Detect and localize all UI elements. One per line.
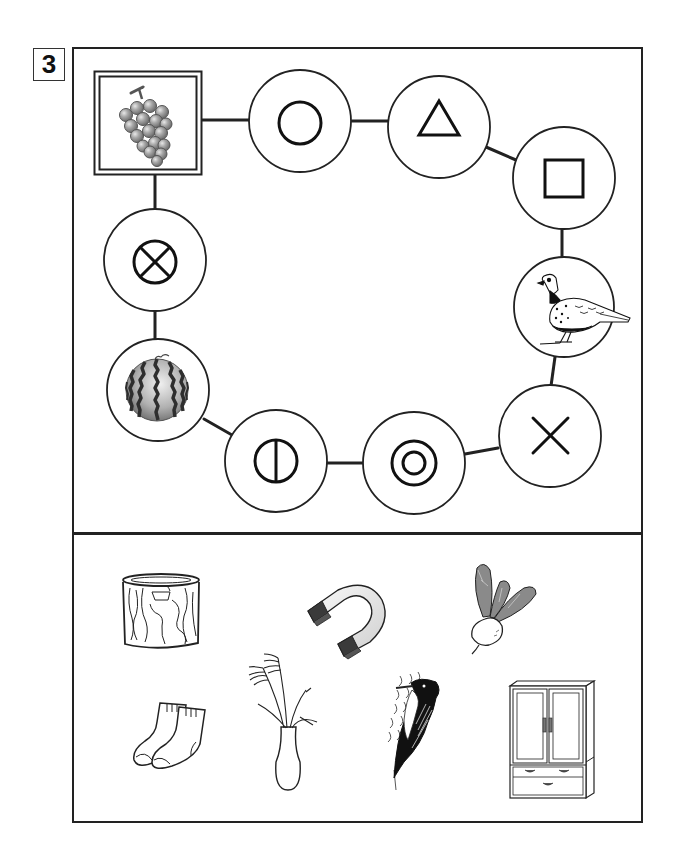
node-triangle[interactable]	[388, 76, 490, 178]
node-watermelon[interactable]	[107, 339, 209, 441]
choice-tree-stump[interactable]	[123, 574, 199, 648]
start-node-grapes[interactable]	[95, 72, 202, 175]
puzzle-canvas	[0, 0, 674, 863]
choice-socks[interactable]	[134, 703, 205, 768]
pampas-grass-vase-icon	[249, 654, 317, 790]
woodpecker-icon	[388, 672, 439, 790]
wardrobe-icon	[510, 681, 594, 798]
choice-turnip[interactable]	[472, 564, 536, 654]
choice-wardrobe[interactable]	[510, 681, 594, 798]
tree-stump-icon	[123, 574, 199, 648]
choice-pampas-vase[interactable]	[249, 654, 317, 790]
node-cross[interactable]	[499, 385, 601, 487]
node-double-circle[interactable]	[363, 412, 465, 514]
node-pheasant[interactable]	[514, 257, 630, 357]
turnip-icon	[472, 564, 536, 654]
magnet-icon	[308, 585, 385, 659]
choice-magnet[interactable]	[308, 585, 385, 659]
node-circled-x[interactable]	[104, 209, 206, 311]
connector-lines	[155, 120, 562, 463]
socks-icon	[134, 703, 205, 768]
node-square[interactable]	[513, 127, 615, 229]
node-circle[interactable]	[249, 70, 351, 172]
choice-woodpecker[interactable]	[388, 672, 439, 790]
node-circle-bar[interactable]	[225, 410, 327, 512]
